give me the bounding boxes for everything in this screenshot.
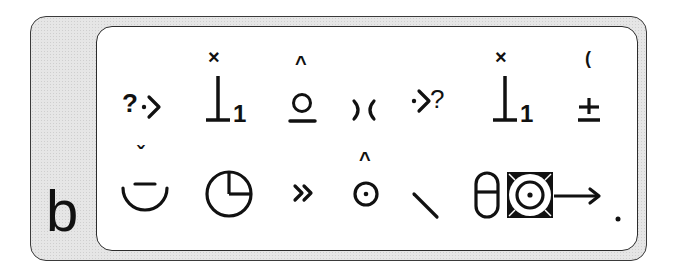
square-target-icon (506, 171, 556, 221)
clock-circle-icon (203, 168, 255, 220)
dotted-circle-icon (352, 180, 380, 208)
underlined-circle-icon (287, 92, 319, 126)
diagonal-stroke-icon (410, 190, 442, 222)
up-tack-icon (204, 74, 234, 124)
arrow-right-icon (554, 186, 604, 206)
panel-label: b (46, 182, 78, 240)
period-dot-icon (613, 214, 623, 224)
up-tack-icon (491, 74, 521, 124)
smile-arc-icon (120, 180, 172, 220)
reversed-parentheses-icon (350, 98, 382, 122)
plus-minus-icon (575, 96, 605, 126)
dot-chevron-right-icon (140, 94, 164, 120)
symbol-panel (96, 26, 638, 251)
double-chevron-right-icon (292, 183, 316, 203)
pill-icon (473, 170, 503, 220)
